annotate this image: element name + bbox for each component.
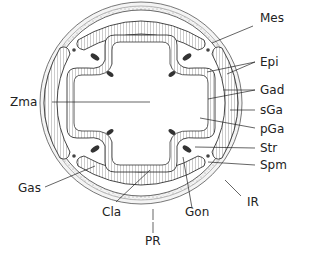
label-cla: Cla [102, 206, 121, 218]
label-ir: IR [247, 196, 259, 208]
label-pga: pGa [260, 123, 284, 135]
label-gas: Gas [18, 182, 41, 194]
label-sga: sGa [260, 104, 283, 116]
label-pr: PR [145, 235, 161, 247]
label-zma: Zma [10, 96, 37, 108]
label-spm: Spm [260, 159, 287, 171]
label-epi: Epi [260, 56, 279, 68]
label-gon: Gon [185, 206, 209, 218]
label-str: Str [260, 142, 277, 154]
label-gad: Gad [260, 84, 284, 96]
label-mes: Mes [260, 12, 284, 24]
